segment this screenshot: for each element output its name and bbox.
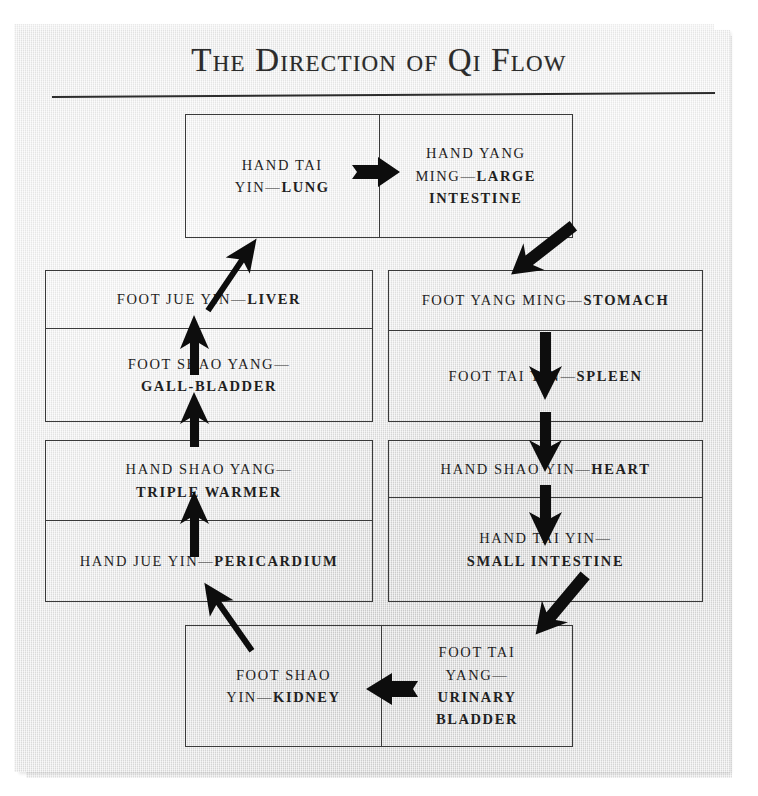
box-urinary-bladder-organ-a: URINARY (437, 689, 516, 705)
box-heart-organ: HEART (591, 461, 650, 477)
box-heart[interactable]: HAND SHAO YIN—HEART (389, 441, 702, 497)
box-small-intestine-organ: SMALL INTESTINE (467, 553, 624, 569)
group-top: HAND TAI YIN—LUNG HAND YANG MING—LARGE I… (185, 114, 573, 238)
box-liver-prefix: FOOT JUE YIN— (117, 291, 247, 307)
box-lung-line1: HAND TAI (242, 157, 323, 173)
box-stomach[interactable]: FOOT YANG MING—STOMACH (389, 271, 702, 330)
box-kidney-line1: FOOT SHAO (236, 667, 331, 683)
box-triple-warmer[interactable]: HAND SHAO YANG— TRIPLE WARMER (46, 441, 372, 520)
box-gall-bladder-prefix: FOOT SHAO YANG— (128, 356, 291, 372)
group-right-lower: HAND SHAO YIN—HEART HAND TAI YIN— SMALL … (388, 440, 703, 602)
qi-flow-diagram-page: The Direction of Qi Flow HAND TAI YIN—LU… (0, 0, 758, 796)
box-small-intestine-prefix: HAND TAI YIN— (479, 530, 611, 546)
box-pericardium-organ: PERICARDIUM (214, 553, 338, 569)
group-left-lower: HAND SHAO YANG— TRIPLE WARMER HAND JUE Y… (45, 440, 373, 602)
box-liver[interactable]: FOOT JUE YIN—LIVER (46, 271, 372, 328)
box-gall-bladder[interactable]: FOOT SHAO YANG— GALL-BLADDER (46, 328, 372, 421)
box-urinary-bladder[interactable]: FOOT TAI YANG— URINARY BLADDER (381, 626, 572, 746)
box-liver-organ: LIVER (247, 291, 301, 307)
box-triple-warmer-organ: TRIPLE WARMER (136, 484, 282, 500)
box-spleen-prefix: FOOT TAI YIN— (448, 368, 576, 384)
box-large-intestine-line1: HAND YANG (426, 145, 526, 161)
group-left-upper: FOOT JUE YIN—LIVER FOOT SHAO YANG— GALL-… (45, 270, 373, 422)
box-small-intestine[interactable]: HAND TAI YIN— SMALL INTESTINE (389, 497, 702, 601)
box-stomach-prefix: FOOT YANG MING— (422, 292, 584, 308)
group-right-upper: FOOT YANG MING—STOMACH FOOT TAI YIN—SPLE… (388, 270, 703, 422)
box-lung-line2-prefix: YIN— (235, 179, 282, 195)
box-large-intestine-organ-b: INTESTINE (429, 190, 522, 206)
box-urinary-bladder-line1: FOOT TAI (439, 644, 516, 660)
box-gall-bladder-organ: GALL-BLADDER (141, 378, 277, 394)
box-heart-prefix: HAND SHAO YIN— (441, 461, 592, 477)
box-large-intestine[interactable]: HAND YANG MING—LARGE INTESTINE (379, 115, 573, 237)
box-large-intestine-line2-prefix: MING— (415, 168, 476, 184)
box-urinary-bladder-organ-b: BLADDER (436, 711, 518, 727)
box-urinary-bladder-line2: YANG— (446, 667, 509, 683)
box-kidney[interactable]: FOOT SHAO YIN—KIDNEY (186, 626, 381, 746)
box-spleen-organ: SPLEEN (577, 368, 643, 384)
box-triple-warmer-prefix: HAND SHAO YANG— (126, 461, 293, 477)
box-kidney-line2-prefix: YIN— (226, 689, 273, 705)
box-stomach-organ: STOMACH (583, 292, 669, 308)
box-pericardium[interactable]: HAND JUE YIN—PERICARDIUM (46, 520, 372, 601)
box-pericardium-prefix: HAND JUE YIN— (80, 553, 215, 569)
box-kidney-organ: KIDNEY (273, 689, 341, 705)
page-title: The Direction of Qi Flow (0, 42, 758, 79)
box-lung-organ: LUNG (281, 179, 329, 195)
group-bottom: FOOT SHAO YIN—KIDNEY FOOT TAI YANG— URIN… (185, 625, 573, 747)
box-lung[interactable]: HAND TAI YIN—LUNG (186, 115, 379, 237)
box-spleen[interactable]: FOOT TAI YIN—SPLEEN (389, 330, 702, 421)
box-large-intestine-organ-a: LARGE (477, 168, 537, 184)
